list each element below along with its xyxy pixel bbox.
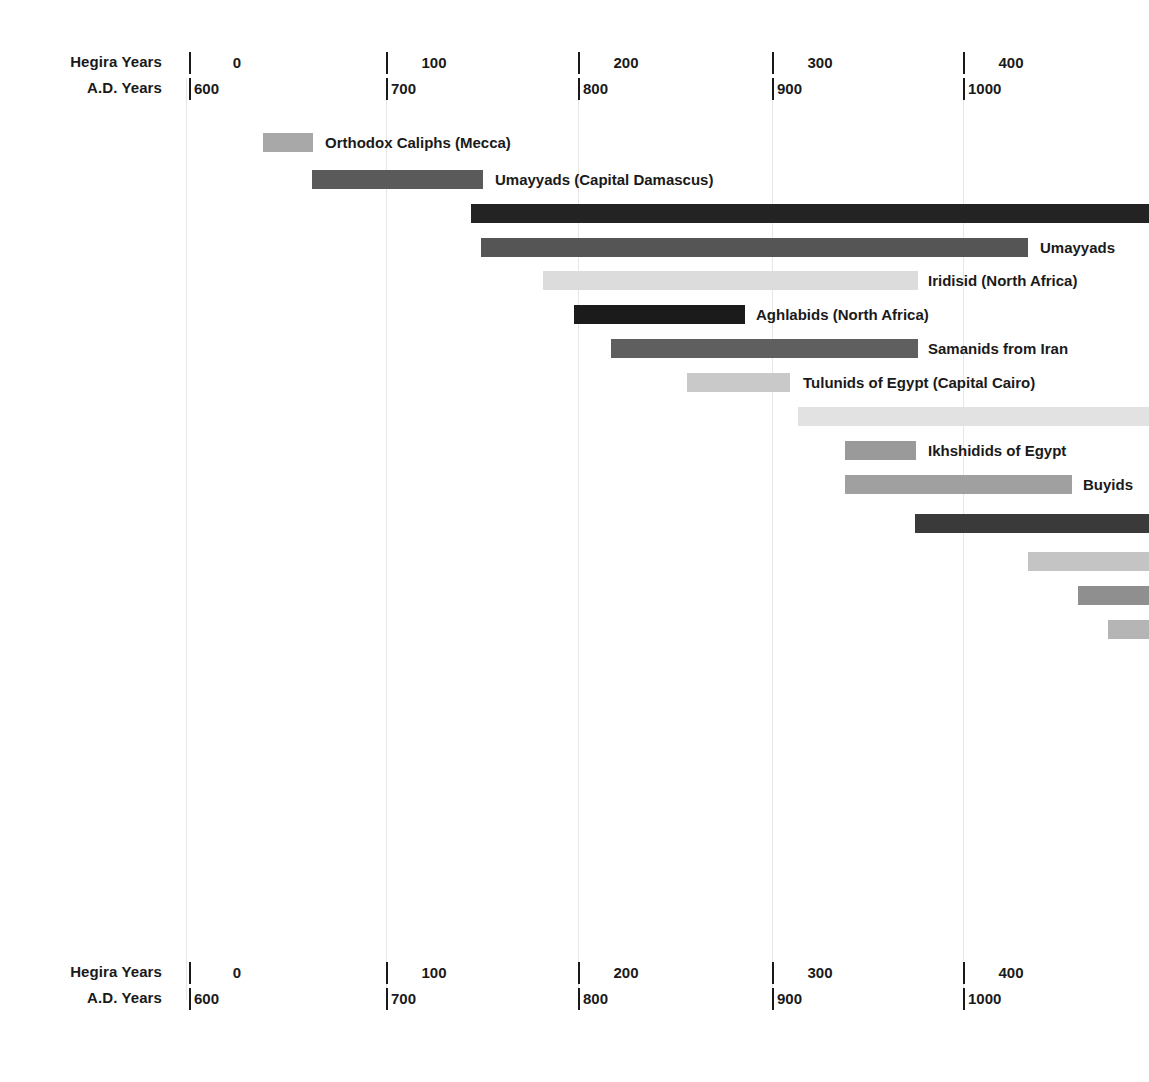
- axis-bottom-hegira-label-1: 100: [421, 963, 446, 983]
- axis-bottom-hegira-label-0: 0: [233, 963, 241, 983]
- axis-bottom: Hegira Years 0100200300400 A.D. Years 60…: [0, 962, 1149, 1014]
- timeline-chart: Hegira Years 0100200300400 A.D. Years 60…: [0, 0, 1149, 1082]
- timeline-row: Buyids: [0, 475, 1149, 497]
- axis-bottom-ad-label-2: 800: [583, 989, 608, 1009]
- timeline-row: Umayyads (Capital Damascus): [0, 170, 1149, 192]
- timeline-bar-label: Tulunids of Egypt (Capital Cairo): [803, 372, 1035, 393]
- timeline-row: Samanids from Iran: [0, 339, 1149, 361]
- axis-bottom-ad-tick-2: [578, 988, 580, 1010]
- timeline-bar[interactable]: [845, 475, 1072, 494]
- timeline-bar[interactable]: [1078, 586, 1149, 605]
- timeline-row: [0, 620, 1149, 642]
- axis-bottom-hegira-label-2: 200: [613, 963, 638, 983]
- axis-bottom-hegira-label-4: 400: [998, 963, 1023, 983]
- axis-bottom-hegira-tick-2: [578, 962, 580, 984]
- timeline-bar[interactable]: [574, 305, 745, 324]
- timeline-bar-label: Umayyads: [1040, 237, 1115, 258]
- timeline-bar[interactable]: [312, 170, 483, 189]
- axis-bottom-ad-label-4: 1000: [968, 989, 1001, 1009]
- timeline-row: Tulunids of Egypt (Capital Cairo): [0, 373, 1149, 395]
- timeline-bar[interactable]: [543, 271, 918, 290]
- timeline-bar[interactable]: [798, 407, 1149, 426]
- axis-bottom-ad-label-3: 900: [777, 989, 802, 1009]
- bars-layer: Orthodox Caliphs (Mecca)Umayyads (Capita…: [0, 0, 1149, 1082]
- axis-bottom-hegira-tick-3: [772, 962, 774, 984]
- axis-bottom-ad-row: A.D. Years 6007008009001000: [0, 988, 1149, 1014]
- axis-bottom-hegira-row: Hegira Years 0100200300400: [0, 962, 1149, 988]
- timeline-bar[interactable]: [611, 339, 918, 358]
- timeline-bar-label: Buyids: [1083, 474, 1133, 495]
- timeline-bar-label: Aghlabids (North Africa): [756, 304, 929, 325]
- axis-bottom-hegira-label-3: 300: [807, 963, 832, 983]
- axis-bottom-hegira-tick-0: [189, 962, 191, 984]
- timeline-bar-label: Samanids from Iran: [928, 338, 1068, 359]
- timeline-row: [0, 407, 1149, 429]
- axis-bottom-ad-label-0: 600: [194, 989, 219, 1009]
- timeline-bar[interactable]: [263, 133, 313, 152]
- axis-bottom-ad-caption: A.D. Years: [0, 988, 162, 1008]
- timeline-row: Umayyads: [0, 238, 1149, 260]
- axis-bottom-ad-tick-0: [189, 988, 191, 1010]
- timeline-row: Aghlabids (North Africa): [0, 305, 1149, 327]
- timeline-row: [0, 204, 1149, 226]
- timeline-row: Orthodox Caliphs (Mecca): [0, 133, 1149, 155]
- timeline-bar-label: Umayyads (Capital Damascus): [495, 169, 713, 190]
- timeline-bar[interactable]: [481, 238, 1028, 257]
- axis-bottom-ad-label-1: 700: [391, 989, 416, 1009]
- timeline-bar-label: Ikhshidids of Egypt: [928, 440, 1066, 461]
- timeline-bar[interactable]: [471, 204, 1149, 223]
- axis-bottom-hegira-tick-1: [386, 962, 388, 984]
- timeline-bar-label: Iridisid (North Africa): [928, 270, 1077, 291]
- timeline-row: Ikhshidids of Egypt: [0, 441, 1149, 463]
- timeline-bar-label: Orthodox Caliphs (Mecca): [325, 132, 511, 153]
- axis-bottom-ad-tick-3: [772, 988, 774, 1010]
- timeline-row: Iridisid (North Africa): [0, 271, 1149, 293]
- timeline-bar[interactable]: [687, 373, 790, 392]
- axis-bottom-hegira-caption: Hegira Years: [0, 962, 162, 982]
- timeline-bar[interactable]: [1108, 620, 1149, 639]
- timeline-bar[interactable]: [915, 514, 1149, 533]
- timeline-row: [0, 552, 1149, 574]
- timeline-row: [0, 514, 1149, 536]
- timeline-bar[interactable]: [1028, 552, 1149, 571]
- axis-bottom-ad-tick-1: [386, 988, 388, 1010]
- axis-bottom-ad-tick-4: [963, 988, 965, 1010]
- timeline-bar[interactable]: [845, 441, 916, 460]
- axis-bottom-hegira-tick-4: [963, 962, 965, 984]
- timeline-row: [0, 586, 1149, 608]
